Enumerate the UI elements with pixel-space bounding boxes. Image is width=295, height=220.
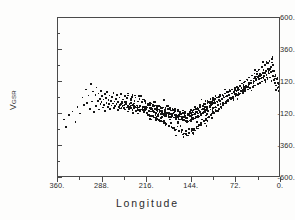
data-point [258, 69, 260, 71]
data-point [157, 116, 159, 118]
data-point [72, 111, 74, 113]
data-point [109, 95, 111, 97]
data-point [184, 114, 186, 116]
data-point [191, 119, 193, 121]
data-point [161, 107, 163, 109]
data-point [131, 96, 133, 98]
data-point [199, 106, 201, 108]
data-point [93, 111, 95, 113]
data-point [237, 89, 239, 91]
data-point [206, 125, 208, 127]
data-point [168, 125, 170, 127]
data-point [247, 79, 249, 81]
data-point [102, 107, 104, 109]
data-point [82, 97, 84, 99]
data-point [89, 108, 91, 110]
x-axis-tick [191, 177, 192, 182]
data-point [106, 91, 108, 93]
data-point [134, 100, 136, 102]
data-point [268, 73, 270, 75]
data-point [139, 98, 141, 100]
data-point [90, 83, 92, 85]
data-point [239, 94, 241, 96]
scatter-plot-figure: VGSR 600.360.120.-120.-360.-600. 360.288… [0, 0, 295, 220]
data-point [99, 98, 101, 100]
data-point [113, 107, 115, 109]
data-point [252, 86, 254, 88]
data-point [165, 124, 167, 126]
data-point [85, 89, 87, 91]
data-point [196, 121, 198, 123]
data-point [141, 101, 143, 103]
x-axis-tick-label: 360. [42, 181, 72, 190]
data-point [224, 93, 226, 95]
data-point [268, 71, 270, 73]
data-point [106, 102, 108, 104]
data-point [130, 102, 132, 104]
x-axis-minor-tick [124, 177, 125, 180]
data-point [272, 64, 274, 66]
data-point [130, 98, 132, 100]
data-point [186, 117, 188, 119]
data-point [257, 83, 259, 85]
data-point [195, 116, 197, 118]
data-point [180, 116, 182, 118]
data-point [145, 102, 147, 104]
data-point [204, 103, 206, 105]
x-axis-title: Longitude [0, 197, 295, 209]
data-point [275, 85, 277, 87]
x-axis-tick [280, 177, 281, 182]
data-point [100, 103, 102, 105]
data-point [134, 95, 136, 97]
data-point [104, 110, 106, 112]
data-point [127, 111, 129, 113]
data-point [182, 134, 184, 136]
data-point [272, 56, 274, 58]
data-point [264, 64, 266, 66]
data-point [219, 100, 221, 102]
data-point [269, 77, 271, 79]
x-axis-tick [102, 177, 103, 182]
data-point [161, 111, 163, 113]
data-point [164, 109, 166, 111]
data-point [132, 109, 134, 111]
data-point [116, 94, 118, 96]
data-point [115, 98, 117, 100]
data-point [176, 129, 178, 131]
data-point [189, 111, 191, 113]
data-point [262, 61, 264, 63]
data-point [155, 118, 157, 120]
data-point [124, 95, 126, 97]
data-point [242, 92, 244, 94]
x-axis-tick-label: 288. [87, 181, 117, 190]
data-point [237, 98, 239, 100]
data-point [201, 99, 203, 101]
y-axis-title: VGSR [0, 93, 35, 107]
data-point [75, 121, 77, 123]
data-point [251, 75, 253, 77]
data-point [199, 116, 201, 118]
data-point [261, 81, 263, 83]
data-point [135, 97, 137, 99]
data-point [120, 93, 122, 95]
data-point [221, 98, 223, 100]
data-point [178, 130, 180, 132]
data-point [206, 109, 208, 111]
data-point [100, 90, 102, 92]
data-point [101, 101, 103, 103]
data-point [271, 62, 273, 64]
x-axis-tick-label: 216. [131, 181, 161, 190]
data-point [137, 101, 139, 103]
data-point [124, 101, 126, 103]
data-point [199, 104, 201, 106]
data-point [268, 62, 270, 64]
data-point [182, 110, 184, 112]
data-point [149, 104, 151, 106]
data-point [194, 130, 196, 132]
data-point [211, 101, 213, 103]
data-point [95, 94, 97, 96]
data-point [247, 86, 249, 88]
data-point [261, 66, 263, 68]
data-point [197, 128, 199, 130]
data-point [213, 112, 215, 114]
